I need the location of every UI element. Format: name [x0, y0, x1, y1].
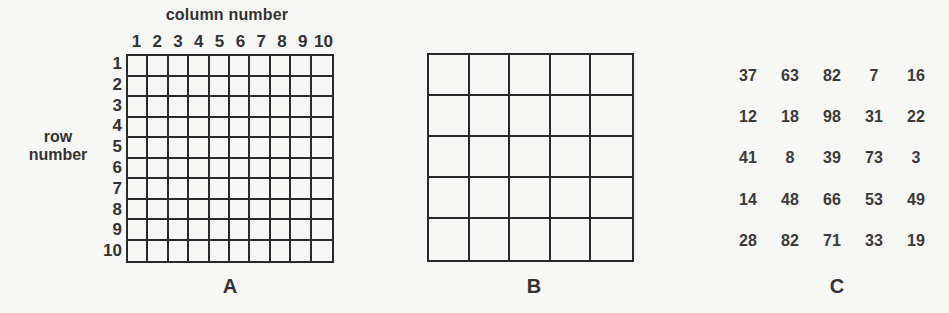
random-number-table-c: 3763827161218983122418397331448665349288… [727, 55, 937, 261]
grid-cell [291, 138, 311, 159]
number-cell: 63 [769, 55, 811, 96]
column-label: 4 [188, 32, 209, 52]
grid-cell [169, 200, 189, 221]
grid-cell [148, 97, 168, 118]
grid-cell [470, 137, 511, 178]
grid-cell [271, 138, 291, 159]
row-label: 4 [98, 116, 122, 137]
grid-cell [312, 241, 332, 262]
grid-cell [250, 159, 270, 180]
grid-cell [148, 241, 168, 262]
grid-cell [250, 77, 270, 98]
column-label: 9 [292, 32, 313, 52]
column-number-title: column number [150, 6, 304, 24]
grid-cell [230, 241, 250, 262]
number-cell: 49 [895, 179, 937, 220]
grid-cell [189, 241, 209, 262]
grid-cell [210, 77, 230, 98]
row-number-title: row number [18, 128, 98, 164]
row-title-line2: number [18, 146, 98, 164]
row-label: 1 [98, 54, 122, 75]
grid-cell [128, 118, 148, 139]
column-label: 7 [251, 32, 272, 52]
column-label: 6 [230, 32, 251, 52]
column-number-labels: 1 2 3 4 5 6 7 8 9 10 [126, 32, 334, 52]
number-cell: 18 [769, 96, 811, 137]
grid-cell [551, 137, 592, 178]
number-cell: 33 [853, 220, 895, 261]
grid-cell [271, 159, 291, 180]
grid-cell [291, 179, 311, 200]
grid-cell [250, 97, 270, 118]
grid-cell [551, 219, 592, 260]
grid-cell [250, 200, 270, 221]
grid-cell [312, 118, 332, 139]
grid-cell [591, 55, 632, 96]
grid-cell [128, 220, 148, 241]
grid-cell [169, 138, 189, 159]
grid-cell [128, 241, 148, 262]
grid-cell [250, 56, 270, 77]
grid-cell [169, 179, 189, 200]
number-cell: 3 [895, 137, 937, 178]
grid-cell [271, 179, 291, 200]
grid-cell [429, 55, 470, 96]
grid-cell [291, 220, 311, 241]
grid-cell [312, 200, 332, 221]
grid-cell [429, 178, 470, 219]
grid-cell [230, 97, 250, 118]
number-cell: 12 [727, 96, 769, 137]
grid-cell [148, 118, 168, 139]
row-number-labels: 1 2 3 4 5 6 7 8 9 10 [98, 54, 122, 262]
grid-cell [271, 56, 291, 77]
column-label: 8 [272, 32, 293, 52]
grid-cell [271, 220, 291, 241]
grid-cell [470, 178, 511, 219]
number-cell: 19 [895, 220, 937, 261]
grid-cell [271, 118, 291, 139]
grid-cell [169, 97, 189, 118]
grid-cell [210, 97, 230, 118]
grid-cell [148, 77, 168, 98]
grid-cell [312, 159, 332, 180]
grid-cell [510, 178, 551, 219]
grid-cell [169, 159, 189, 180]
grid-cell [230, 200, 250, 221]
grid-cell [210, 118, 230, 139]
grid-cell [230, 77, 250, 98]
grid-cell [148, 159, 168, 180]
grid-cell [148, 220, 168, 241]
row-title-line1: row [18, 128, 98, 146]
column-label: 10 [313, 32, 334, 52]
grid-cell [148, 179, 168, 200]
grid-cell [291, 200, 311, 221]
grid-cell [189, 159, 209, 180]
grid-cell [510, 219, 551, 260]
grid-cell [250, 138, 270, 159]
grid-cell [312, 179, 332, 200]
grid-cell [291, 241, 311, 262]
grid-cell [429, 137, 470, 178]
row-label: 7 [98, 179, 122, 200]
number-cell: 73 [853, 137, 895, 178]
column-label: 5 [209, 32, 230, 52]
grid-cell [312, 220, 332, 241]
grid-cell [189, 179, 209, 200]
grid-cell [230, 159, 250, 180]
grid-cell [510, 55, 551, 96]
grid-cell [128, 138, 148, 159]
number-cell: 14 [727, 179, 769, 220]
grid-cell [312, 97, 332, 118]
grid-cell [291, 77, 311, 98]
number-cell: 53 [853, 179, 895, 220]
grid-cell [128, 159, 148, 180]
grid-cell [470, 219, 511, 260]
panel-label-a: A [210, 275, 250, 298]
number-cell: 41 [727, 137, 769, 178]
grid-cell [291, 56, 311, 77]
grid-cell [189, 56, 209, 77]
column-label: 1 [126, 32, 147, 52]
panel-label-b: B [514, 275, 554, 298]
grid-cell [291, 97, 311, 118]
grid-cell [551, 96, 592, 137]
